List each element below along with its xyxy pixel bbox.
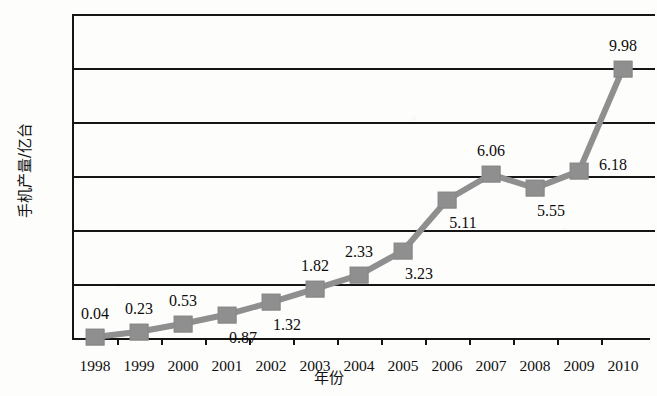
data-point-marker xyxy=(262,294,281,311)
plot-area: 024681012 199819992000200120022003200420… xyxy=(72,14,655,338)
chart-root: 手机产量/亿台 年份 024681012 1998199920002001200… xyxy=(0,0,657,396)
data-point-marker xyxy=(218,306,237,323)
series-line xyxy=(72,14,655,338)
data-point-marker xyxy=(482,166,501,183)
x-tick xyxy=(161,338,163,345)
data-point-label: 0.87 xyxy=(229,329,257,347)
data-point-label: 0.23 xyxy=(125,300,153,318)
data-point-label: 0.04 xyxy=(81,305,109,323)
x-tick xyxy=(381,338,383,345)
data-point-marker xyxy=(614,60,633,77)
data-point-marker xyxy=(394,242,413,259)
x-tick xyxy=(293,338,295,345)
data-point-marker xyxy=(526,180,545,197)
data-point-marker xyxy=(130,323,149,340)
x-tick xyxy=(425,338,427,345)
x-axis-line xyxy=(72,338,650,340)
data-point-label: 9.98 xyxy=(609,37,637,55)
x-tick xyxy=(469,338,471,345)
x-tick xyxy=(117,338,119,345)
data-point-label: 6.06 xyxy=(477,142,505,160)
data-point-label: 1.32 xyxy=(273,316,301,334)
data-point-marker xyxy=(174,315,193,332)
x-tick xyxy=(513,338,515,345)
x-tick-label: 2010 xyxy=(596,357,650,375)
data-point-label: 6.18 xyxy=(599,156,627,174)
x-tick xyxy=(557,338,559,345)
x-tick xyxy=(205,338,207,345)
x-tick xyxy=(337,338,339,345)
data-point-label: 5.55 xyxy=(537,202,565,220)
data-point-label: 2.33 xyxy=(345,243,373,261)
data-point-marker xyxy=(438,192,457,209)
data-point-label: 1.82 xyxy=(301,257,329,275)
data-point-marker xyxy=(570,163,589,180)
y-axis-title: 手机产量/亿台 xyxy=(13,86,34,256)
data-point-label: 0.53 xyxy=(169,292,197,310)
data-point-marker xyxy=(86,328,105,345)
data-point-marker xyxy=(306,280,325,297)
data-point-label: 3.23 xyxy=(405,265,433,283)
x-tick xyxy=(601,338,603,345)
data-point-label: 5.11 xyxy=(449,214,476,232)
data-point-marker xyxy=(350,267,369,284)
